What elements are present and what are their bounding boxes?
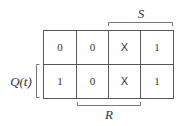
bottom-variable-bracket: R [78,102,141,122]
bottom-variable-label: R [104,107,113,122]
kmap-cell: 0 [57,41,63,53]
kmap-cell: 1 [57,75,63,87]
top-variable-bracket: S [109,6,173,26]
left-variable-bracket: Q(t) [10,65,39,98]
top-variable-label: S [138,6,145,21]
kmap-cell: 1 [154,41,160,53]
kmap-cell: 0 [90,41,96,53]
left-variable-label: Q(t) [10,74,32,89]
kmap-cell: 1 [154,75,160,87]
kmap-cell: X [121,75,129,87]
kmap-cell: X [121,41,129,53]
kmap-cell: 0 [90,75,96,87]
karnaugh-map: 0 0 X 1 1 0 X 1 S R Q(t) [0,0,187,126]
